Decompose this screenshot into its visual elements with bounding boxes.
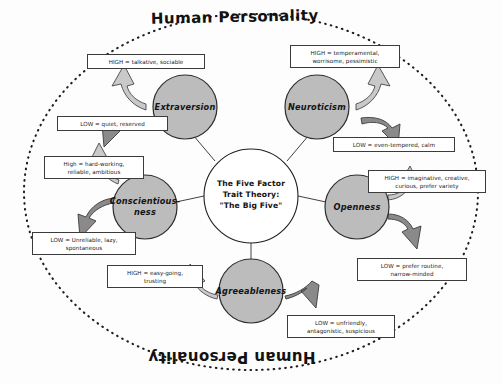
textbox-agreeableness-low[interactable]: LOW = unfriendly, antagonistic, suspicio… bbox=[287, 315, 395, 338]
textbox-agreeableness-high-line2: trusting bbox=[111, 277, 199, 285]
textbox-conscientiousness-low-line2: spontaneous bbox=[36, 244, 132, 252]
textbox-conscientiousness-low[interactable]: LOW = Unreliable, lazy, spontaneous bbox=[32, 232, 136, 255]
textbox-conscientiousness-high-line2: reliable, ambitious bbox=[48, 168, 140, 176]
agreeableness-low-arrow bbox=[285, 281, 319, 308]
textbox-openness-low-line2: narrow-minded bbox=[361, 270, 463, 278]
textbox-neuroticism-low-line1: LOW = even-tempered, calm bbox=[337, 141, 451, 149]
textbox-agreeableness-low-line1: LOW = unfriendly, bbox=[291, 319, 391, 327]
textbox-openness-low-line1: LOW = prefer routine, bbox=[361, 262, 463, 270]
textbox-extraversion-high-line1: HIGH = talkative, sociable bbox=[91, 58, 201, 66]
trait-circle-agreeableness[interactable] bbox=[219, 259, 283, 323]
textbox-openness-high[interactable]: HIGH = imaginative, creative, curious, p… bbox=[368, 170, 486, 193]
extraversion-high-arrow bbox=[112, 65, 146, 110]
trait-circle-conscientiousness[interactable] bbox=[113, 175, 177, 239]
neuroticism-high-arrow bbox=[356, 65, 390, 110]
textbox-agreeableness-high[interactable]: HIGH = easy-going, trusting bbox=[107, 265, 203, 288]
trait-circle-neuroticism[interactable] bbox=[285, 75, 349, 139]
ring-title-top: Human Personality bbox=[151, 6, 319, 28]
textbox-openness-high-line2: curious, prefer variety bbox=[372, 182, 482, 190]
textbox-neuroticism-high-line1: HIGH = temperamental, bbox=[294, 49, 396, 57]
diagram-canvas: Human Personality Human Personality The … bbox=[0, 0, 502, 384]
textbox-conscientiousness-high[interactable]: High = hard-working, reliable, ambitious bbox=[44, 156, 144, 179]
textbox-neuroticism-high[interactable]: HIGH = temperamental, worrisome, pessimi… bbox=[290, 45, 400, 68]
textbox-agreeableness-low-line2: antagonistic, suspicious bbox=[291, 327, 391, 335]
textbox-neuroticism-high-line2: worrisome, pessimistic bbox=[294, 57, 396, 65]
textbox-openness-low[interactable]: LOW = prefer routine, narrow-minded bbox=[357, 258, 467, 281]
textbox-extraversion-high[interactable]: HIGH = talkative, sociable bbox=[87, 54, 205, 69]
textbox-extraversion-low[interactable]: LOW = quiet, reserved bbox=[57, 116, 168, 131]
openness-low-arrow bbox=[388, 214, 421, 249]
textbox-neuroticism-low[interactable]: LOW = even-tempered, calm bbox=[333, 137, 455, 152]
ring-title-bottom: Human Personality bbox=[148, 348, 316, 366]
textbox-openness-high-line1: HIGH = imaginative, creative, bbox=[372, 174, 482, 182]
textbox-agreeableness-high-line1: HIGH = easy-going, bbox=[111, 269, 199, 277]
textbox-extraversion-low-line1: LOW = quiet, reserved bbox=[61, 120, 164, 128]
textbox-conscientiousness-high-line1: High = hard-working, bbox=[48, 160, 140, 168]
textbox-conscientiousness-low-line1: LOW = Unreliable, lazy, bbox=[36, 236, 132, 244]
center-circle[interactable] bbox=[204, 149, 298, 243]
